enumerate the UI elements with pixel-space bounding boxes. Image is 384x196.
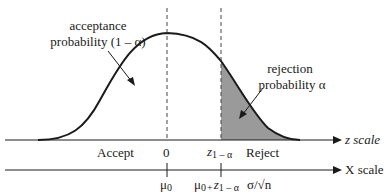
reject-region-label: Reject [246, 146, 279, 160]
acceptance-pointer-arrow-icon [127, 77, 135, 86]
x-tick-mu0: μ0 [160, 178, 172, 193]
x-tick-critical: μ0+z1 – ασ/√n [194, 178, 271, 193]
acceptance-label-line1: acceptance [38, 19, 158, 33]
x-scale-label: X scale [345, 163, 384, 177]
x-axis-arrow-icon [333, 166, 342, 174]
z-axis-arrow-icon [333, 136, 342, 144]
rejection-label-line2: probability α [232, 78, 352, 92]
z-tick-zero: 0 [163, 146, 170, 160]
z-tick-critical: z1 – α [207, 145, 232, 160]
rejection-label-line1: rejection [240, 62, 340, 76]
accept-region-label: Accept [97, 146, 134, 160]
z-scale-label: z scale [345, 133, 380, 147]
acceptance-label-line2: probability (1 – α) [28, 35, 168, 49]
